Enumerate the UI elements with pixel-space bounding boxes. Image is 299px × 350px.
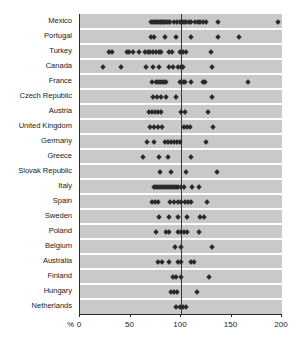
x-axis-tick-label: 50	[110, 320, 150, 329]
category-label: Portugal	[0, 32, 72, 40]
x-axis-tick	[180, 314, 181, 317]
category-axis-labels: MexicoPortugalTurkeyCanadaFranceCzech Re…	[0, 14, 72, 314]
category-label: Spain	[0, 197, 72, 205]
category-label: Netherlands	[0, 302, 72, 310]
x-axis-tick-label: 200	[261, 320, 299, 329]
category-label: Poland	[0, 227, 72, 235]
category-label: Italy	[0, 182, 72, 190]
category-label: Hungary	[0, 287, 72, 295]
category-label: Sweden	[0, 212, 72, 220]
category-label: United Kingdom	[0, 122, 72, 130]
dot-plot-figure: MexicoPortugalTurkeyCanadaFranceCzech Re…	[0, 0, 299, 350]
x-axis-tick	[281, 314, 282, 317]
category-label: Canada	[0, 62, 72, 70]
x-axis-tick-label: 150	[211, 320, 251, 329]
plot-area	[79, 14, 282, 315]
category-label: Finland	[0, 272, 72, 280]
x-axis-tick	[79, 314, 80, 317]
category-label: Slovak Republic	[0, 167, 72, 175]
category-label: Czech Republic	[0, 92, 72, 100]
x-axis-tick	[130, 314, 131, 317]
category-label: Greece	[0, 152, 72, 160]
x-axis-tick	[231, 314, 232, 317]
category-label: Austria	[0, 107, 72, 115]
x-axis-unit-label: %	[60, 320, 74, 329]
category-label: Germany	[0, 137, 72, 145]
category-label: Turkey	[0, 47, 72, 55]
category-label: Belgium	[0, 242, 72, 250]
reference-line-100	[181, 14, 182, 314]
category-label: Mexico	[0, 17, 72, 25]
category-label: Australia	[0, 257, 72, 265]
category-label: France	[0, 77, 72, 85]
x-axis-tick-label: 100	[160, 320, 200, 329]
